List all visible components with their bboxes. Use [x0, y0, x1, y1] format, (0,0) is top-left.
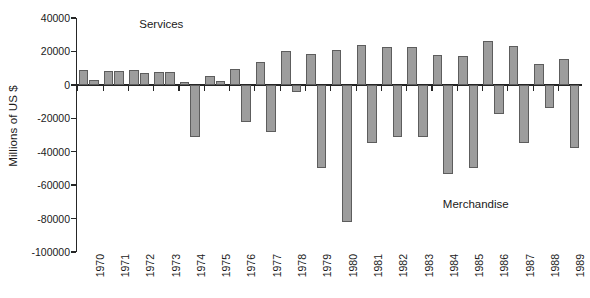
y-axis-title: Millions of US $: [0, 0, 26, 252]
x-axis-tick-label-1979: 1979: [321, 254, 333, 277]
bar-services-1978: [281, 51, 291, 85]
bar-services-1975: [205, 76, 215, 85]
x-axis-tick-mark: [254, 86, 255, 91]
x-axis-tick-label-1981: 1981: [372, 254, 384, 277]
bar-merchandise-1973: [165, 72, 175, 85]
y-axis-tick-label: -40000: [37, 146, 70, 158]
bar-merchandise-1981: [367, 85, 377, 144]
bar-services-1972: [129, 70, 139, 85]
x-axis-tick-label-1974: 1974: [195, 254, 207, 277]
bar-merchandise-1971: [114, 71, 124, 85]
bar-services-1974: [180, 82, 190, 85]
bar-services-1970: [79, 70, 89, 85]
x-axis-tick-label-1986: 1986: [498, 254, 510, 277]
bar-merchandise-1983: [418, 85, 428, 138]
x-axis-tick-mark: [533, 86, 534, 91]
bar-merchandise-1977: [266, 85, 276, 132]
bar-merchandise-1972: [140, 73, 150, 85]
x-axis-tick-mark: [507, 86, 508, 91]
bar-merchandise-1989: [570, 85, 580, 149]
series-annotation-merchandise: Merchandise: [443, 198, 509, 210]
bar-services-1985: [458, 56, 468, 84]
x-axis-tick-label-1987: 1987: [524, 254, 536, 277]
bar-services-1971: [104, 71, 114, 85]
bar-merchandise-1987: [519, 85, 529, 144]
y-axis-tick-label: 40000: [41, 12, 70, 24]
x-axis-tick-label-1980: 1980: [347, 254, 359, 277]
bar-services-1988: [534, 64, 544, 85]
x-axis-tick-label-1989: 1989: [574, 254, 586, 277]
x-axis-tick-mark: [229, 86, 230, 91]
x-axis-tick-label-1988: 1988: [549, 254, 561, 277]
bar-merchandise-1978: [292, 85, 302, 93]
bar-services-1981: [357, 45, 367, 85]
y-axis-tick-label: -60000: [37, 179, 70, 191]
bar-services-1973: [154, 72, 164, 85]
x-axis-zero-line: [76, 84, 582, 85]
y-axis-tick-mark: [71, 51, 76, 52]
series-annotation-services: Services: [139, 18, 183, 30]
x-axis-tick-mark: [204, 86, 205, 91]
x-axis-tick-mark: [77, 86, 78, 91]
bar-merchandise-1970: [89, 80, 99, 85]
x-axis-tick-mark: [381, 86, 382, 91]
y-axis-tick-label: 0: [64, 79, 70, 91]
y-axis-tick-mark: [71, 118, 76, 119]
bar-merchandise-1979: [317, 85, 327, 169]
x-axis-tick-mark: [457, 86, 458, 91]
x-axis-tick-label-1983: 1983: [423, 254, 435, 277]
x-axis-tick-labels: 1970197119721973197419751976197719781979…: [76, 252, 582, 298]
bar-merchandise-1988: [545, 85, 555, 108]
bar-services-1989: [559, 59, 569, 85]
x-axis-tick-mark: [178, 86, 179, 91]
x-axis-tick-label-1971: 1971: [119, 254, 131, 277]
x-axis-tick-mark: [558, 86, 559, 91]
x-axis-tick-mark: [103, 86, 104, 91]
x-axis-tick-mark: [128, 86, 129, 91]
x-axis-tick-label-1973: 1973: [170, 254, 182, 277]
x-axis-tick-mark: [356, 86, 357, 91]
bar-merchandise-1975: [216, 81, 226, 85]
y-axis-line: [76, 18, 77, 252]
bar-merchandise-1974: [190, 85, 200, 137]
y-axis-tick-mark: [71, 218, 76, 219]
y-axis-tick-label: -20000: [37, 112, 70, 124]
y-axis-tick-labels: 40000200000-20000-40000-60000-80000-1000…: [26, 0, 76, 252]
y-axis-tick-label: -100000: [31, 246, 70, 258]
bar-merchandise-1985: [469, 85, 479, 169]
x-axis-tick-mark: [280, 86, 281, 91]
y-axis-tick-mark: [71, 17, 76, 18]
bar-merchandise-1984: [443, 85, 453, 174]
y-axis-tick-mark: [71, 151, 76, 152]
bar-merchandise-1986: [494, 85, 504, 114]
x-axis-tick-label-1972: 1972: [144, 254, 156, 277]
x-axis-tick-label-1978: 1978: [296, 254, 308, 277]
bar-services-1984: [433, 55, 443, 85]
x-axis-tick-mark: [153, 86, 154, 91]
bar-services-1977: [256, 62, 266, 85]
x-axis-tick-label-1975: 1975: [220, 254, 232, 277]
bar-services-1979: [306, 54, 316, 85]
x-axis-tick-label-1970: 1970: [94, 254, 106, 277]
x-axis-tick-label-1984: 1984: [448, 254, 460, 277]
x-axis-tick-label-1977: 1977: [271, 254, 283, 277]
y-axis-title-text: Millions of US $: [7, 85, 19, 167]
bar-chart-figure: Millions of US $ 40000200000-20000-40000…: [0, 0, 590, 298]
x-axis-tick-mark: [305, 86, 306, 91]
x-axis-tick-label-1982: 1982: [397, 254, 409, 277]
plot-area: ServicesMerchandise: [76, 18, 582, 252]
x-axis-tick-mark: [482, 86, 483, 91]
bar-merchandise-1982: [393, 85, 403, 137]
bar-merchandise-1976: [241, 85, 251, 123]
y-axis-tick-mark: [71, 184, 76, 185]
x-axis-tick-label-1976: 1976: [245, 254, 257, 277]
bar-services-1982: [382, 47, 392, 85]
bar-services-1976: [230, 69, 240, 85]
x-axis-tick-mark: [330, 86, 331, 91]
x-axis-tick-label-1985: 1985: [473, 254, 485, 277]
bar-services-1980: [332, 50, 342, 85]
x-axis-tick-mark: [406, 86, 407, 91]
y-axis-tick-mark: [71, 84, 76, 85]
bar-merchandise-1980: [342, 85, 352, 222]
y-axis-tick-label: 20000: [41, 45, 70, 57]
